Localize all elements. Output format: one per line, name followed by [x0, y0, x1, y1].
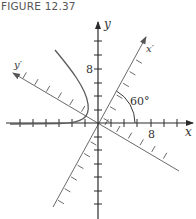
x-prime-ticks — [58, 60, 142, 204]
x-tick-label-8: 8 — [148, 128, 155, 141]
x-prime-axis — [53, 37, 146, 207]
y-prime-axis-label: y′ — [13, 59, 23, 70]
y-prime-ticks — [23, 72, 167, 158]
y-axis-label: y — [103, 17, 111, 31]
y-prime-axis — [13, 72, 179, 171]
y-tick-label-8: 8 — [86, 63, 93, 76]
x-prime-axis-label: x′ — [146, 43, 155, 54]
angle-label: 60° — [130, 95, 150, 108]
x-axis-label: x — [185, 125, 192, 139]
rotated-axes-diagram: y x x′ y′ 8 8 60° — [0, 0, 196, 219]
x-axis — [6, 119, 193, 127]
